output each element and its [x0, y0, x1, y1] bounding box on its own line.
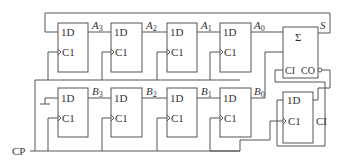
ff-carry-c-label: C1: [288, 115, 301, 127]
adder-co-label: CO: [301, 65, 315, 76]
signal-a3: A3: [91, 19, 103, 33]
ff-a0-d-label: 1D: [223, 26, 237, 38]
clk-a0: [210, 52, 220, 80]
circuit-svg: 1D C1 1D C1 1D C1 1D C1 A3 A2 A1 A0 Σ S …: [0, 0, 340, 166]
ff-a2-d-label: 1D: [114, 26, 128, 38]
ff-a0-c-label: C1: [224, 46, 237, 58]
ff-b2-c-label: C1: [115, 112, 128, 124]
signal-a2: A2: [145, 19, 157, 33]
ff-a1-c-label: C1: [171, 46, 184, 58]
ff-b2-d-label: 1D: [114, 92, 128, 104]
ff-b3-c-label: C1: [62, 112, 75, 124]
clk-b1: [157, 118, 167, 151]
cp-label: CP: [12, 145, 25, 157]
ff-a3-d-label: 1D: [61, 26, 75, 38]
signal-b0: B0: [254, 85, 265, 99]
signal-s: S: [320, 19, 326, 31]
ff-a3-c-label: C1: [62, 46, 75, 58]
clk-a2: [102, 52, 111, 80]
ff-b3-d-label: 1D: [61, 92, 75, 104]
signal-a1: A1: [200, 19, 212, 33]
signal-b1: B1: [201, 85, 212, 99]
signal-b3: B3: [92, 85, 103, 99]
clk-b0: [210, 118, 220, 151]
circuit-diagram: 1D C1 1D C1 1D C1 1D C1 A3 A2 A1 A0 Σ S …: [0, 0, 340, 166]
clk-a3: [48, 52, 58, 80]
adder-sigma-label: Σ: [295, 31, 301, 43]
ff-a2-c-label: C1: [115, 46, 128, 58]
signal-b2: B2: [146, 85, 157, 99]
co-inversion-bubble: [318, 68, 322, 72]
clk-b2: [102, 118, 111, 151]
signal-a0: A0: [253, 19, 265, 33]
clk-b3: [48, 118, 58, 151]
carry-ci-label: CI: [316, 115, 327, 127]
adder-ci-label: CI: [285, 65, 295, 76]
ff-b0-c-label: C1: [224, 112, 237, 124]
ff-b1-c-label: C1: [171, 112, 184, 124]
ff-b1-d-label: 1D: [170, 92, 184, 104]
ff-carry-d-label: 1D: [287, 94, 301, 106]
ff-b0-d-label: 1D: [223, 92, 237, 104]
ff-a1-d-label: 1D: [170, 26, 184, 38]
clk-a1: [157, 52, 167, 80]
